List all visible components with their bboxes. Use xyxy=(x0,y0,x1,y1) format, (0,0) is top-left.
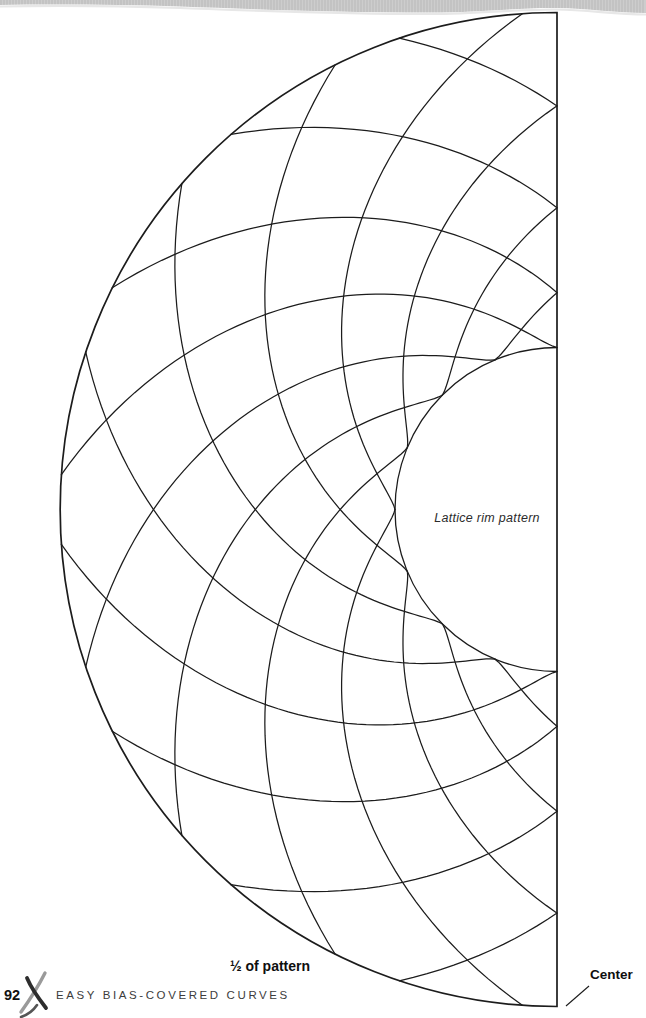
pattern-outer-boundary xyxy=(60,13,557,1007)
lattice-curve xyxy=(61,294,557,475)
lattice-curve xyxy=(61,544,557,725)
inner-circle-edge xyxy=(395,348,557,672)
lattice-curve xyxy=(403,571,557,913)
diagram-label-lattice-rim-pattern: Lattice rim pattern xyxy=(387,511,587,525)
running-footer-title: EASY BIAS-COVERED CURVES xyxy=(56,989,290,1001)
diagram-label-center: Center xyxy=(590,967,633,982)
book-page: Lattice rim pattern ½ of pattern Center … xyxy=(0,0,646,1018)
lattice-curve xyxy=(495,659,557,726)
lattice-curve xyxy=(342,510,523,1006)
lattice-curve xyxy=(265,448,407,955)
lattice-curve xyxy=(231,811,557,891)
lattice-curve xyxy=(342,14,523,510)
lattice-curve xyxy=(231,127,557,207)
logo-dark-stroke xyxy=(27,978,46,1008)
lattice-curve xyxy=(403,106,557,448)
lattice-curves xyxy=(61,14,557,1006)
diagram-label-half-of-pattern: ½ of pattern xyxy=(190,958,350,974)
center-label-leader-line xyxy=(566,986,589,1006)
lattice-curve xyxy=(265,65,407,572)
lattice-curve xyxy=(495,293,557,360)
crossed-needles-logo-icon xyxy=(14,970,54,1018)
lattice-rim-pattern-diagram xyxy=(0,0,646,1018)
